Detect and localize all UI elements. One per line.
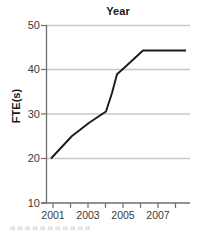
- gridlines: [46, 26, 190, 159]
- chart-figure: Year FTE(s) 50 40 30 20 10 2001 2003 200…: [0, 0, 198, 233]
- plot-area: [0, 0, 198, 233]
- y-axis-ticks: [41, 26, 46, 204]
- data-line-fte: [51, 51, 186, 159]
- x-axis-ticks: [53, 203, 176, 208]
- cropped-footer-text: a a a a a a a a a a a: [10, 226, 190, 231]
